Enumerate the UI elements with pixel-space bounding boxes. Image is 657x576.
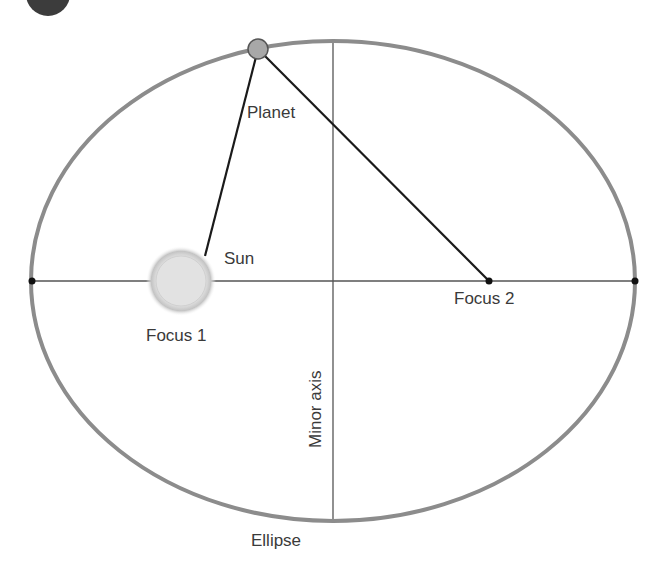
ellipse-label: Ellipse [251,532,301,549]
planet-icon [248,39,268,59]
ellipse-orbit-diagram [0,0,657,576]
planet-to-sun-line [205,49,258,256]
major-axis-left-endpoint [29,278,36,285]
corner-badge-icon [26,0,70,16]
major-axis-right-endpoint [632,278,639,285]
planet-label: Planet [247,104,295,121]
focus2-point [486,278,493,285]
planet-to-focus2-line [258,49,489,281]
focus2-label: Focus 2 [454,290,514,307]
sun-label: Sun [224,250,254,267]
sun-icon [156,256,206,306]
minor-axis-label: Minor axis [307,371,324,448]
focus1-label: Focus 1 [146,327,206,344]
